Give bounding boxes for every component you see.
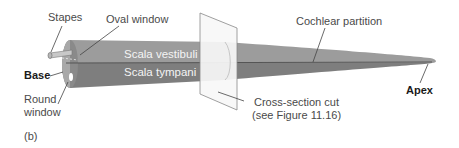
cross-section-plane	[200, 13, 237, 110]
cross-section-label-line1: Cross-section cut	[254, 96, 339, 109]
cochlear-partition-label: Cochlear partition	[296, 15, 382, 28]
apex-label: Apex	[406, 84, 433, 97]
cross-section-label-line2: (see Figure 11.16)	[252, 109, 341, 122]
stapes-label: Stapes	[48, 11, 82, 24]
panel-label: (b)	[24, 130, 37, 143]
round-window-label-line1: Round	[24, 93, 56, 106]
round-window-label-line2: window	[24, 106, 61, 119]
scala-tympani-label: Scala tympani	[124, 66, 196, 79]
scala-vestibuli-label: Scala vestibuli	[124, 48, 198, 61]
oval-window-label: Oval window	[106, 13, 168, 26]
base-label: Base	[24, 69, 50, 82]
round-window-shape	[69, 73, 73, 81]
